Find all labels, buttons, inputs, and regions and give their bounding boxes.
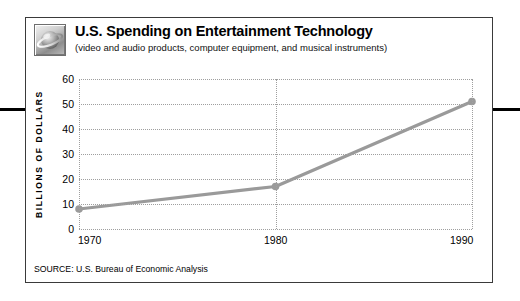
right-edge-rule xyxy=(490,108,520,111)
gridline-vertical xyxy=(472,79,473,229)
plot-wrapper: BILLIONS OF DOLLARS 0102030405060 197019… xyxy=(26,18,492,282)
source-note: SOURCE: U.S. Bureau of Economic Analysis xyxy=(34,264,208,274)
y-tick-label: 20 xyxy=(52,174,74,184)
y-axis-label: BILLIONS OF DOLLARS xyxy=(31,79,47,229)
x-tick-label: 1970 xyxy=(78,234,101,246)
x-tick-label: 1990 xyxy=(450,234,473,246)
plot-area xyxy=(79,79,472,229)
gridline-vertical xyxy=(79,79,80,229)
figure-panel: U.S. Spending on Entertainment Technolog… xyxy=(25,17,493,283)
y-tick-label: 30 xyxy=(52,149,74,159)
y-tick-label: 40 xyxy=(52,124,74,134)
y-axis-tick-labels: 0102030405060 xyxy=(48,79,74,229)
gridline-vertical xyxy=(276,79,277,229)
y-tick-label: 10 xyxy=(52,199,74,209)
y-tick-label: 60 xyxy=(52,74,74,84)
y-tick-label: 50 xyxy=(52,99,74,109)
y-tick-label: 0 xyxy=(52,224,74,234)
gridline-horizontal xyxy=(79,229,472,230)
x-tick-label: 1980 xyxy=(264,234,287,246)
